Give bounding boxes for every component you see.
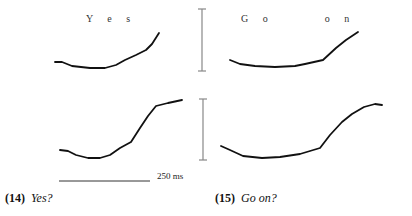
contour-go-on-bottom bbox=[221, 104, 382, 158]
pitch-range-bar-top bbox=[198, 9, 206, 71]
word-label-yes: Y e s bbox=[86, 13, 136, 24]
contour-go-on-top bbox=[230, 32, 358, 67]
caption-15: (15)Go on? bbox=[215, 191, 277, 206]
caption-15-number: (15) bbox=[215, 191, 235, 205]
caption-14-text: Yes? bbox=[31, 191, 53, 205]
figure-canvas bbox=[0, 0, 412, 216]
time-scale-label: 250 ms bbox=[157, 171, 183, 181]
caption-14: (14)Yes? bbox=[5, 191, 53, 206]
pitch-range-bar-bottom bbox=[199, 99, 207, 160]
contour-yes-bottom bbox=[60, 100, 182, 158]
contour-yes-top bbox=[55, 33, 159, 68]
caption-15-text: Go on? bbox=[241, 191, 277, 205]
caption-14-number: (14) bbox=[5, 191, 25, 205]
word-label-go-on: G o o n bbox=[241, 13, 355, 24]
